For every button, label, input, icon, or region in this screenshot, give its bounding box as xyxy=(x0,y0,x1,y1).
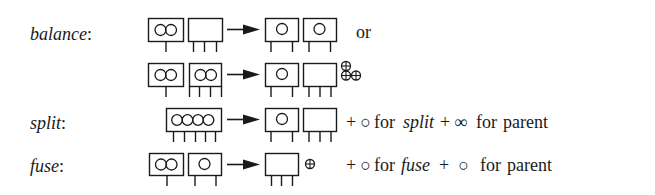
node-one-key xyxy=(266,19,299,53)
free-node-icon xyxy=(342,62,351,71)
arrow-icon xyxy=(227,25,260,35)
freed-nodes-icon xyxy=(342,62,361,81)
node-empty xyxy=(266,154,299,187)
or-text: or xyxy=(356,22,371,42)
node-four-keys xyxy=(167,109,222,143)
arrow-icon xyxy=(227,115,260,125)
node-one-key xyxy=(266,109,299,143)
node-one-key xyxy=(189,154,222,187)
balance-variant-1: or xyxy=(149,19,372,53)
node-two-keys-four-children xyxy=(190,64,222,98)
free-node-icon xyxy=(342,71,351,80)
arrow-icon xyxy=(227,70,260,80)
balance-variant-2 xyxy=(149,62,361,98)
tree-operations-diagram: balance: xyxy=(0,0,655,195)
fuse-label: fuse: xyxy=(30,156,64,176)
node-two-keys xyxy=(149,19,184,53)
balance-label: balance: xyxy=(30,24,92,44)
free-node-icon xyxy=(352,71,361,80)
node-one-key xyxy=(304,19,337,53)
fuse-cost-text: +○forfuse+○forparent xyxy=(346,155,552,175)
node-two-keys xyxy=(149,64,184,98)
node-one-key xyxy=(266,64,299,98)
free-node-icon xyxy=(306,160,315,169)
fuse-row: fuse: +○forfuse+○forparen xyxy=(30,154,552,187)
node-empty xyxy=(304,109,337,143)
arrow-icon xyxy=(227,160,260,170)
split-cost-text: +○forsplit+∞forparent xyxy=(346,112,548,132)
node-empty xyxy=(189,19,223,53)
split-row: split: +○forsp xyxy=(30,109,548,143)
node-empty xyxy=(304,64,337,98)
balance-row: balance: xyxy=(30,19,371,98)
node-two-keys xyxy=(150,154,184,187)
split-label: split: xyxy=(30,113,66,133)
